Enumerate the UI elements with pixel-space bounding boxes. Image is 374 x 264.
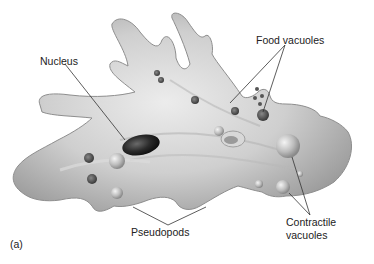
vacuole <box>109 153 125 169</box>
amoeba-diagram: Nucleus Food vacuoles Pseudopods Contrac… <box>0 0 374 264</box>
vacuole <box>87 174 97 184</box>
food-vacuole <box>191 96 199 104</box>
pseudopods-label: Pseudopods <box>131 226 189 238</box>
food-vacuole <box>231 107 239 115</box>
panel-label: (a) <box>10 238 23 250</box>
vacuole <box>111 187 123 199</box>
food-particle <box>253 96 257 100</box>
contractile-vacuole <box>276 180 290 194</box>
contractile-vacuoles-label-line1: Contractile <box>286 216 336 228</box>
food-vacuole <box>154 70 160 76</box>
contractile-vacuole <box>276 134 300 158</box>
food-particle <box>255 87 259 91</box>
food-vacuole <box>158 77 164 83</box>
food-particle <box>258 102 262 106</box>
contractile-vacuoles-label-line2: vacuoles <box>286 229 327 241</box>
vacuole <box>84 153 94 163</box>
food-particle <box>260 94 264 98</box>
nucleus-label: Nucleus <box>40 55 78 67</box>
food-vacuoles-label: Food vacuoles <box>256 34 324 46</box>
